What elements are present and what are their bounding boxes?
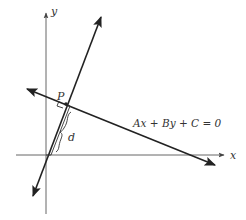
point-p-label: P (56, 90, 65, 103)
line-equation: Ax + By + C = 0 (132, 117, 222, 129)
point-p (64, 102, 68, 106)
perpendicular-line (33, 17, 101, 196)
distance-diagram: x y P d Ax + By + C = 0 (0, 0, 246, 220)
y-axis-label: y (50, 5, 58, 18)
distance-label: d (68, 131, 75, 144)
x-axis-label: x (230, 149, 237, 162)
